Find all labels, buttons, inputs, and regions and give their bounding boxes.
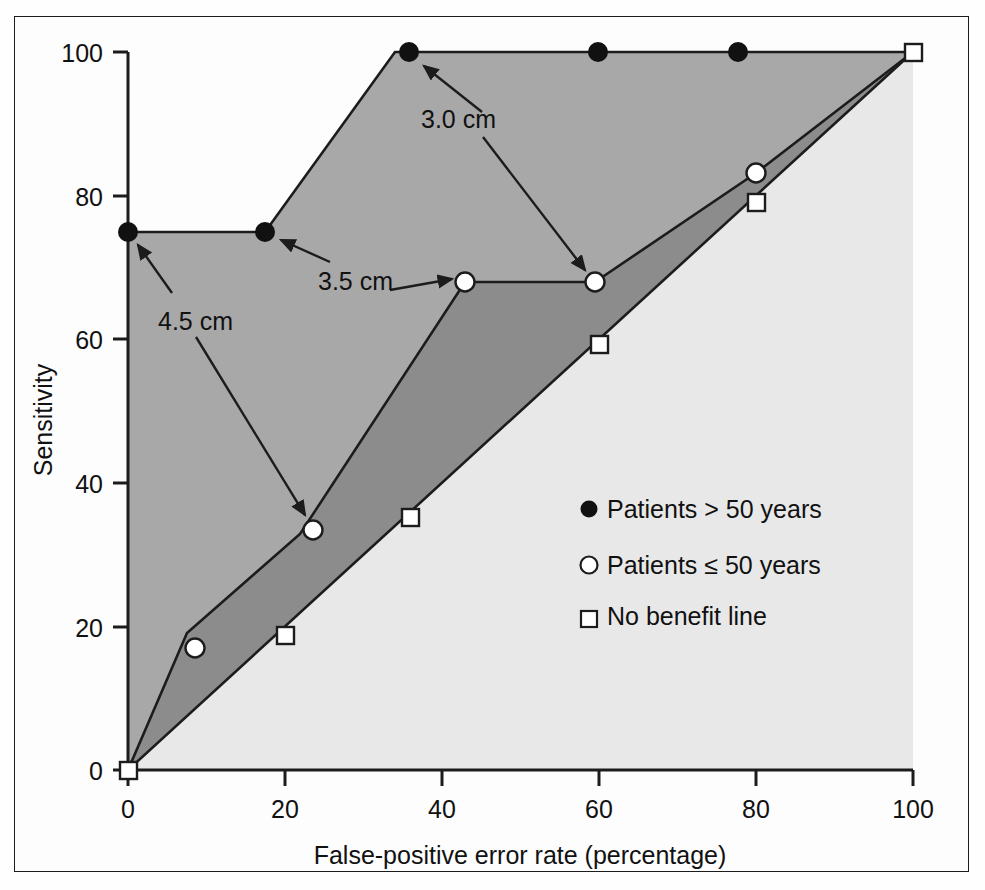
annotation-label-3-0-cm: 3.0 cm [421, 105, 496, 133]
x-tick-label-20: 20 [271, 795, 299, 823]
x-axis-ticks [128, 770, 913, 786]
marker-filled-circle [118, 222, 138, 242]
legend-label-older-patients: Patients > 50 years [607, 495, 822, 523]
marker-open-circle [456, 273, 475, 292]
x-tick-label-40: 40 [428, 795, 456, 823]
x-tick-label-60: 60 [585, 795, 613, 823]
legend-item-no-benefit-line[interactable]: No benefit line [581, 602, 767, 630]
x-tick-label-0: 0 [121, 795, 135, 823]
legend-label-no-benefit-line: No benefit line [607, 602, 767, 630]
legend-item-older-patients[interactable]: Patients > 50 years [581, 495, 822, 523]
annotation-label-3-5-cm: 3.5 cm [318, 267, 393, 295]
marker-filled-circle [588, 42, 608, 62]
y-tick-label-20: 20 [75, 614, 103, 642]
x-axis-title: False-positive error rate (percentage) [314, 841, 727, 869]
marker-open-circle [747, 164, 766, 183]
roc-chart: 100 80 60 40 20 0 0 20 40 60 80 100 Fals… [0, 0, 985, 890]
marker-filled-circle [399, 42, 419, 62]
marker-filled-circle [255, 222, 275, 242]
marker-open-circle [586, 273, 605, 292]
y-tick-label-100: 100 [61, 39, 103, 67]
x-axis-tick-labels: 0 20 40 60 80 100 [121, 795, 934, 823]
y-axis-title: Sensitivity [29, 363, 57, 476]
marker-open-square [120, 762, 137, 779]
y-axis-tick-labels: 100 80 60 40 20 0 [61, 39, 103, 785]
legend-label-younger-patients: Patients ≤ 50 years [607, 551, 821, 579]
filled-circle-icon [581, 501, 598, 518]
marker-open-circle [304, 521, 323, 540]
x-tick-label-100: 100 [892, 795, 934, 823]
open-circle-icon [581, 557, 598, 574]
legend-item-younger-patients[interactable]: Patients ≤ 50 years [581, 551, 821, 579]
marker-open-square [277, 627, 294, 644]
marker-open-square [591, 336, 608, 353]
marker-open-square [748, 194, 765, 211]
y-tick-label-0: 0 [89, 757, 103, 785]
y-axis-ticks [113, 52, 128, 770]
marker-open-square [905, 44, 922, 61]
y-tick-label-40: 40 [75, 470, 103, 498]
marker-filled-circle [728, 42, 748, 62]
y-tick-label-80: 80 [75, 183, 103, 211]
marker-open-square [402, 509, 419, 526]
annotation-label-4-5-cm: 4.5 cm [158, 307, 233, 335]
marker-open-circle [186, 639, 205, 658]
figure-root: 100 80 60 40 20 0 0 20 40 60 80 100 Fals… [0, 0, 985, 890]
x-tick-label-80: 80 [742, 795, 770, 823]
open-square-icon [581, 611, 597, 627]
y-tick-label-60: 60 [75, 326, 103, 354]
